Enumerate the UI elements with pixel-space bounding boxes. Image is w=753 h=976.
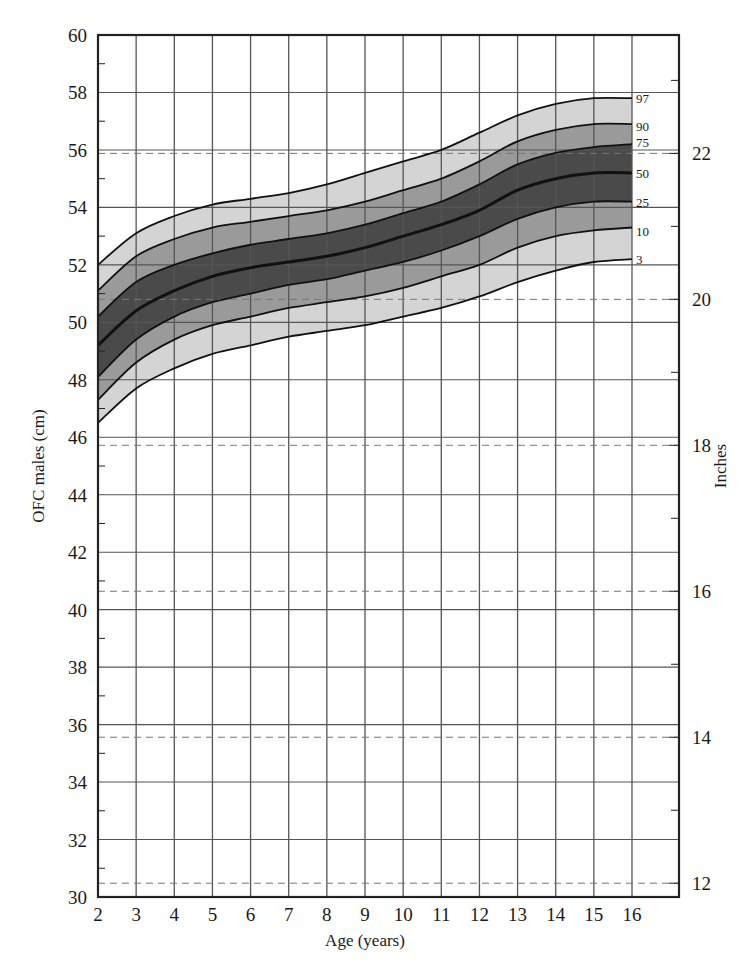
y2-tick-label: 16	[692, 581, 711, 602]
ofc-growth-chart: 30323436384042444648505254565860 2345678…	[0, 0, 753, 976]
percentile-label-90: 90	[636, 119, 649, 134]
percentile-labels: 9790755025103	[636, 91, 650, 267]
y-tick-label: 42	[68, 542, 87, 563]
y2-axis-ticks: 121416182022	[692, 143, 712, 894]
y-tick-label: 48	[68, 370, 87, 391]
y-tick-label: 34	[68, 772, 88, 793]
x-tick-label: 3	[131, 904, 141, 925]
x-tick-label: 15	[584, 904, 603, 925]
y-tick-label: 30	[68, 887, 87, 908]
y-tick-label: 58	[68, 82, 87, 103]
x-tick-label: 6	[246, 904, 256, 925]
y-tick-label: 46	[68, 427, 87, 448]
percentile-label-75: 75	[636, 135, 649, 150]
y-tick-label: 32	[68, 830, 87, 851]
y2-tick-label: 14	[692, 727, 712, 748]
x-tick-label: 7	[284, 904, 294, 925]
y-tick-label: 56	[68, 140, 87, 161]
y-tick-label: 60	[68, 25, 87, 46]
x-tick-label: 16	[623, 904, 642, 925]
percentile-label-3: 3	[636, 252, 643, 267]
x-tick-label: 2	[93, 904, 103, 925]
percentile-label-25: 25	[636, 195, 649, 210]
y-tick-label: 52	[68, 255, 87, 276]
y-tick-label: 54	[68, 197, 88, 218]
x-tick-label: 13	[508, 904, 527, 925]
y2-axis-title: Inches	[711, 444, 730, 488]
y-tick-label: 36	[68, 715, 87, 736]
percentile-label-10: 10	[636, 224, 649, 239]
y2-tick-label: 20	[692, 289, 711, 310]
x-axis-title: Age (years)	[325, 931, 405, 950]
y2-tick-label: 12	[692, 873, 711, 894]
x-tick-label: 9	[360, 904, 370, 925]
x-tick-label: 5	[208, 904, 218, 925]
y-tick-label: 40	[68, 600, 87, 621]
x-axis-ticks: 2345678910111213141516	[93, 904, 641, 925]
y2-tick-label: 18	[692, 435, 711, 456]
y-axis-title: OFC males (cm)	[29, 409, 48, 522]
y-axis-ticks: 30323436384042444648505254565860	[68, 25, 105, 908]
percentile-label-97: 97	[636, 91, 650, 106]
x-tick-label: 4	[170, 904, 180, 925]
x-tick-label: 8	[322, 904, 332, 925]
x-tick-label: 14	[546, 904, 566, 925]
y-tick-label: 50	[68, 312, 87, 333]
x-tick-label: 10	[394, 904, 413, 925]
y-tick-label: 44	[68, 485, 88, 506]
x-tick-label: 11	[432, 904, 450, 925]
y-tick-label: 38	[68, 657, 87, 678]
x-tick-label: 12	[470, 904, 489, 925]
y2-tick-label: 22	[692, 143, 711, 164]
percentile-label-50: 50	[636, 166, 649, 181]
